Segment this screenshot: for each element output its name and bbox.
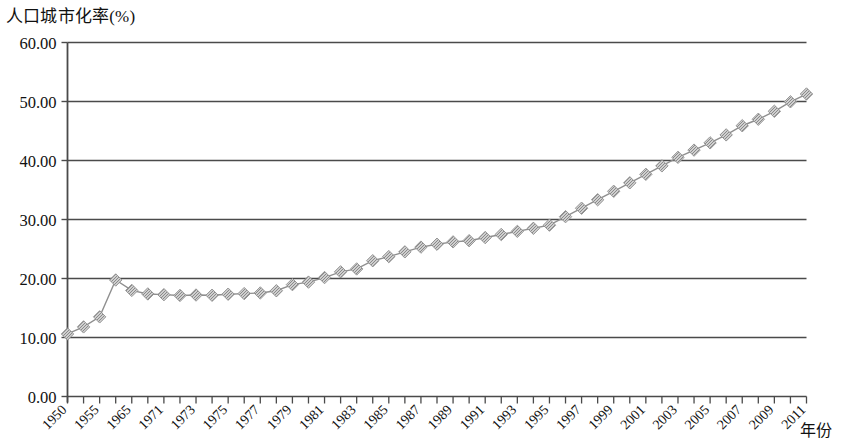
data-point-marker — [752, 113, 764, 125]
data-point-marker — [591, 194, 603, 206]
data-point-marker — [318, 271, 330, 283]
data-point-marker — [431, 238, 443, 250]
data-point-marker — [720, 129, 732, 141]
x-tick-label: 1995 — [521, 402, 551, 432]
y-tick-group: 0.0010.0020.0030.0040.0050.0060.00 — [19, 34, 67, 407]
data-point-marker — [238, 287, 250, 299]
x-tick-label: 1997 — [553, 402, 583, 432]
data-point-marker — [800, 88, 812, 100]
data-point-marker — [190, 289, 202, 301]
data-point-marker — [254, 287, 266, 299]
x-tick-label-group: 1950195519651971197319751977197919811983… — [39, 402, 808, 432]
data-point-marker — [640, 168, 652, 180]
data-point-marker — [688, 144, 700, 156]
x-tick-label: 1985 — [361, 402, 391, 432]
x-tick-label: 1955 — [71, 402, 101, 432]
data-point-marker — [447, 236, 459, 248]
x-tick-label: 2003 — [650, 402, 680, 432]
data-point-marker — [559, 210, 571, 222]
data-point-marker — [608, 185, 620, 197]
x-tick-label: 1987 — [393, 402, 423, 432]
x-tick-label: 1981 — [296, 402, 326, 432]
y-tick-label: 50.00 — [19, 93, 56, 112]
y-tick-label: 60.00 — [19, 34, 56, 53]
data-point-marker — [350, 263, 362, 275]
data-point-marker — [479, 231, 491, 243]
data-point-marker — [575, 202, 587, 214]
data-point-marker — [527, 222, 539, 234]
data-point-marker — [399, 246, 411, 258]
x-tick-label: 2009 — [746, 402, 776, 432]
y-tick-label: 30.00 — [19, 211, 56, 230]
x-tick-group — [68, 397, 807, 404]
y-tick-label: 10.00 — [19, 329, 56, 348]
data-point-marker — [77, 321, 89, 333]
data-point-marker — [142, 288, 154, 300]
x-tick-label: 2005 — [682, 402, 712, 432]
data-point-marker — [222, 288, 234, 300]
data-point-marker — [463, 234, 475, 246]
data-point-marker — [286, 278, 298, 290]
data-point-marker — [624, 177, 636, 189]
y-tick-label: 20.00 — [19, 270, 56, 289]
x-tick-label: 1983 — [328, 402, 358, 432]
data-point-marker — [383, 250, 395, 262]
data-point-marker — [367, 255, 379, 267]
y-tick-label: 0.00 — [28, 388, 57, 407]
gridlines-group — [68, 43, 807, 403]
x-tick-label: 1973 — [168, 402, 198, 432]
x-tick-label: 2001 — [618, 402, 648, 432]
chart-container: 人口城市化率(%) 0.0010.0020.0030.0040.0050.006… — [0, 0, 845, 448]
x-tick-label: 1975 — [200, 402, 230, 432]
x-tick-label: 1989 — [425, 402, 455, 432]
data-point-marker — [93, 311, 105, 323]
data-point-marker — [704, 137, 716, 149]
x-tick-label: 1991 — [457, 402, 487, 432]
x-axis-title: 年份 — [800, 417, 832, 441]
x-tick-label: 1977 — [232, 402, 262, 432]
x-tick-label: 1950 — [39, 402, 69, 432]
data-point-marker — [768, 105, 780, 117]
x-tick-label: 1979 — [264, 402, 294, 432]
data-point-marker — [495, 228, 507, 240]
data-point-marker — [736, 120, 748, 132]
data-point-marker — [126, 284, 138, 296]
data-point-marker — [206, 289, 218, 301]
x-tick-label: 1965 — [103, 402, 133, 432]
data-point-marker — [61, 328, 73, 340]
x-tick-label: 1971 — [136, 402, 166, 432]
x-tick-label: 1993 — [489, 402, 519, 432]
data-point-marker — [174, 289, 186, 301]
y-tick-label: 40.00 — [19, 152, 56, 171]
data-point-marker — [672, 151, 684, 163]
data-point-marker — [784, 96, 796, 108]
data-point-marker — [158, 288, 170, 300]
x-tick-label: 1999 — [585, 402, 615, 432]
data-point-marker — [511, 225, 523, 237]
data-point-marker — [415, 241, 427, 253]
data-point-marker — [109, 274, 121, 286]
data-point-marker — [656, 160, 668, 172]
data-series-group — [61, 88, 812, 340]
data-point-marker — [543, 219, 555, 231]
data-point-marker — [334, 266, 346, 278]
x-tick-label: 2007 — [714, 402, 744, 432]
data-point-marker — [270, 285, 282, 297]
line-chart-plot: 0.0010.0020.0030.0040.0050.0060.00 19501… — [0, 0, 845, 448]
